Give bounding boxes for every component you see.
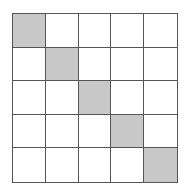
grid-cell	[46, 81, 79, 115]
grid-cell	[79, 115, 112, 149]
grid-cell	[111, 148, 144, 182]
diagonal-grid	[12, 13, 178, 183]
grid-cell	[46, 115, 79, 149]
grid-cell-shaded	[46, 48, 79, 82]
grid-cell-shaded	[13, 14, 46, 48]
grid-cell	[111, 81, 144, 115]
grid-cell	[111, 48, 144, 82]
grid-cell	[144, 14, 177, 48]
grid-cell	[13, 115, 46, 149]
grid-cell	[46, 148, 79, 182]
grid-cell	[79, 148, 112, 182]
grid-cell	[46, 14, 79, 48]
grid-cell	[144, 48, 177, 82]
grid-cell	[144, 115, 177, 149]
grid-cell-shaded	[144, 148, 177, 182]
grid-cell	[144, 81, 177, 115]
grid-cell	[13, 48, 46, 82]
grid-cell	[13, 81, 46, 115]
grid-cell	[111, 14, 144, 48]
grid-cell	[13, 148, 46, 182]
grid-cell	[79, 48, 112, 82]
grid-cell-shaded	[111, 115, 144, 149]
grid-cell-shaded	[79, 81, 112, 115]
grid-cell	[79, 14, 112, 48]
